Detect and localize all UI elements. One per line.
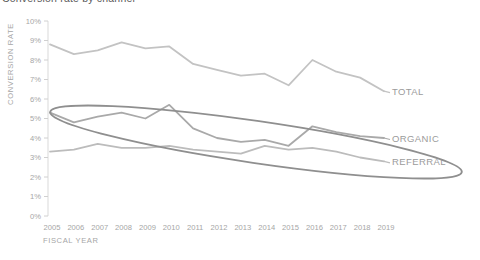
conversion-rate-line-chart: 0%1%2%3%4%5%6%7%8%9%10%20052006200720082… xyxy=(0,0,480,260)
y-axis-title: CONVERSION RATE xyxy=(6,23,15,105)
y-tick-label: 8% xyxy=(30,56,41,65)
y-tick-label: 1% xyxy=(30,192,41,201)
y-tick-label: 9% xyxy=(30,36,41,45)
y-tick-label: 7% xyxy=(30,75,41,84)
x-tick-label: 2012 xyxy=(211,223,228,232)
x-tick-label: 2005 xyxy=(44,223,61,232)
y-tick-label: 2% xyxy=(30,173,41,182)
x-tick-label: 2015 xyxy=(282,223,299,232)
x-tick-label: 2017 xyxy=(330,223,347,232)
x-tick-label: 2013 xyxy=(234,223,251,232)
series-label-organic: ORGANIC xyxy=(392,133,439,144)
series-line-referral xyxy=(50,144,384,162)
x-tick-label: 2019 xyxy=(378,223,395,232)
y-tick-label: 0% xyxy=(30,212,41,221)
y-tick-label: 3% xyxy=(30,153,41,162)
x-tick-label: 2009 xyxy=(139,223,156,232)
x-tick-label: 2007 xyxy=(91,223,108,232)
series-line-organic xyxy=(50,105,384,146)
y-tick-label: 6% xyxy=(30,95,41,104)
x-tick-label: 2014 xyxy=(258,223,275,232)
x-tick-label: 2018 xyxy=(354,223,371,232)
x-tick-label: 2010 xyxy=(163,223,180,232)
x-axis-title: FISCAL YEAR xyxy=(43,236,99,245)
series-line-total xyxy=(50,42,384,91)
series-leader-total xyxy=(384,91,390,93)
y-tick-label: 4% xyxy=(30,134,41,143)
series-leader-organic xyxy=(384,138,390,140)
series-leader-referral xyxy=(384,161,390,163)
series-label-total: TOTAL xyxy=(392,86,424,97)
x-tick-label: 2006 xyxy=(67,223,84,232)
x-tick-label: 2011 xyxy=(187,223,203,232)
x-tick-label: 2008 xyxy=(115,223,132,232)
y-tick-label: 5% xyxy=(30,114,41,123)
y-tick-label: 10% xyxy=(26,17,41,26)
chart-frame: Conversion rate by channel 0%1%2%3%4%5%6… xyxy=(0,0,480,260)
x-tick-label: 2016 xyxy=(306,223,323,232)
